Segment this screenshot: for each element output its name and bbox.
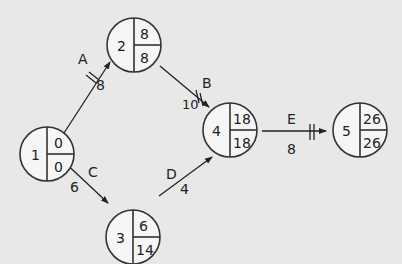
node-1-latest: 0 (54, 159, 63, 175)
activity-label-c: C (88, 164, 98, 180)
activity-label-d: D (166, 166, 177, 182)
node-3-latest: 14 (136, 242, 154, 258)
network-diagram: A 8 B 10 C 6 D 4 E 8 (0, 0, 402, 264)
activity-label-e: E (287, 111, 296, 127)
activity-duration-c: 6 (70, 179, 79, 195)
node-2-id: 2 (117, 38, 126, 54)
node-4-id: 4 (212, 123, 221, 139)
node-2-earliest: 8 (140, 26, 149, 42)
node-1: 1 0 0 (20, 127, 74, 181)
node-1-id: 1 (31, 147, 40, 163)
node-5-earliest: 26 (363, 111, 381, 127)
node-4-earliest: 18 (233, 111, 251, 127)
node-5: 5 26 26 (333, 103, 387, 157)
node-5-latest: 26 (363, 135, 381, 151)
activity-label-b: B (202, 75, 212, 91)
node-2: 2 8 8 (107, 18, 161, 72)
node-3-id: 3 (116, 230, 125, 246)
activity-b: B 10 (160, 66, 212, 112)
activity-a: A 8 (64, 51, 110, 133)
node-4: 4 18 18 (203, 103, 257, 157)
activity-e: E 8 (262, 111, 326, 157)
diagram-canvas: A 8 B 10 C 6 D 4 E 8 (0, 0, 402, 264)
node-3: 3 6 14 (106, 210, 160, 264)
activity-duration-b: 10 (182, 97, 199, 112)
activity-duration-a: 8 (96, 77, 105, 93)
node-4-latest: 18 (233, 135, 251, 151)
node-5-id: 5 (342, 123, 351, 139)
node-1-earliest: 0 (54, 135, 63, 151)
activity-label-a: A (78, 51, 88, 67)
activity-d: D 4 (159, 157, 212, 197)
arrow-a (64, 62, 110, 133)
activity-duration-e: 8 (287, 141, 296, 157)
node-3-earliest: 6 (139, 218, 148, 234)
activity-duration-d: 4 (180, 181, 189, 197)
node-2-latest: 8 (140, 50, 149, 66)
